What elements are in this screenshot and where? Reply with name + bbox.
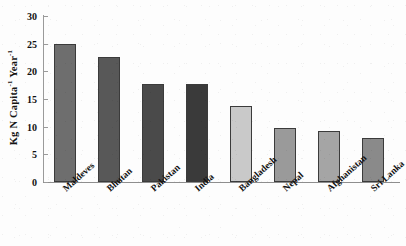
- bar-bangladesh: [230, 106, 252, 182]
- plot-area: 051015202530 MaldevesBhutanPakistanIndia…: [43, 16, 400, 182]
- y-tick-label: 30: [27, 11, 37, 22]
- y-tick-mark: [44, 154, 48, 155]
- y-axis-title-base1: Kg N Capita: [8, 86, 19, 145]
- y-tick-label: 0: [32, 177, 37, 188]
- bar-pakistan: [142, 84, 164, 182]
- y-tick-label: 20: [27, 66, 37, 77]
- bar-chart-figure: Kg N Capita-1 Year-1 051015202530 Maldev…: [0, 0, 406, 246]
- y-tick-label: 15: [27, 94, 37, 105]
- y-axis-title-sup2: -1: [6, 50, 14, 56]
- bar-maldeves: [54, 44, 76, 182]
- y-tick-label: 10: [27, 121, 37, 132]
- y-axis-title-base2: Year: [8, 56, 19, 80]
- y-tick-mark: [44, 44, 48, 45]
- y-tick-mark: [44, 182, 48, 183]
- y-tick-label: 5: [32, 149, 37, 160]
- bar-bhutan: [98, 57, 120, 182]
- y-tick-mark: [44, 127, 48, 128]
- y-tick-mark: [44, 71, 48, 72]
- bar-india: [186, 84, 208, 182]
- y-tick-mark: [44, 99, 48, 100]
- y-tick-mark: [44, 16, 48, 17]
- x-axis-line: [43, 182, 400, 183]
- y-axis-title-sup1: -1: [6, 80, 14, 86]
- y-tick-label: 25: [27, 38, 37, 49]
- y-axis-title: Kg N Capita-1 Year-1: [8, 18, 19, 178]
